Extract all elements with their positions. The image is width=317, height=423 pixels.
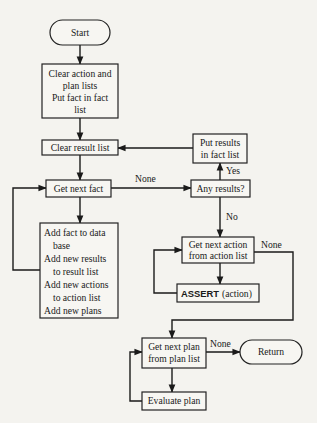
svg-text:Return: Return xyxy=(258,346,284,357)
label-plan-none: None xyxy=(210,338,231,349)
flowchart: None Yes No None None Start Clear action… xyxy=(0,0,317,423)
svg-text:Any results?: Any results? xyxy=(196,183,244,194)
node-get-next-fact: Get next fact xyxy=(46,180,111,197)
node-start: Start xyxy=(50,20,110,45)
label-action-none: None xyxy=(261,239,282,250)
svg-text:Clear action and: Clear action and xyxy=(49,68,112,79)
svg-text:list: list xyxy=(74,104,86,115)
svg-text:Get next fact: Get next fact xyxy=(54,183,104,194)
node-clear-lists: Clear action and plan lists Put fact in … xyxy=(42,64,118,118)
svg-text:Get next action: Get next action xyxy=(189,239,248,250)
svg-text:ASSERT(action): ASSERT(action) xyxy=(181,288,252,300)
node-add-fact: Add fact to data base Add new results to… xyxy=(40,223,118,318)
svg-text:Add new plans: Add new plans xyxy=(44,305,102,316)
svg-text:Evaluate plan: Evaluate plan xyxy=(148,395,201,406)
svg-text:to result list: to result list xyxy=(53,266,99,277)
svg-text:from action list: from action list xyxy=(189,250,248,261)
svg-text:Add new results: Add new results xyxy=(44,253,107,264)
node-return: Return xyxy=(240,340,302,364)
node-put-results: Put results in fact list xyxy=(193,134,247,163)
svg-text:Clear result list: Clear result list xyxy=(51,142,110,153)
svg-text:Get next plan: Get next plan xyxy=(148,341,200,352)
svg-text:Start: Start xyxy=(71,27,89,38)
node-assert-action: ASSERT(action) xyxy=(177,284,259,302)
label-no: No xyxy=(226,211,238,222)
svg-text:from plan list: from plan list xyxy=(148,353,200,364)
svg-text:to action list: to action list xyxy=(53,292,101,303)
node-clear-result: Clear result list xyxy=(42,140,118,155)
svg-text:Put results: Put results xyxy=(200,137,241,148)
assert-arg: (action) xyxy=(222,288,252,300)
label-yes: Yes xyxy=(226,165,240,176)
node-any-results: Any results? xyxy=(191,180,250,197)
edge-evaluate-loop xyxy=(130,352,142,401)
svg-text:Add new actions: Add new actions xyxy=(44,279,109,290)
node-evaluate-plan: Evaluate plan xyxy=(142,392,206,410)
svg-text:base: base xyxy=(53,240,70,251)
assert-keyword: ASSERT xyxy=(181,288,219,299)
node-get-next-plan: Get next plan from plan list xyxy=(142,338,206,368)
svg-text:Add fact to data: Add fact to data xyxy=(44,227,106,238)
svg-text:Put fact in fact: Put fact in fact xyxy=(52,92,109,103)
svg-text:in fact list: in fact list xyxy=(201,149,240,160)
node-get-next-action: Get next action from action list xyxy=(182,237,254,263)
label-fact-none: None xyxy=(135,173,156,184)
svg-text:plan lists: plan lists xyxy=(63,80,98,91)
